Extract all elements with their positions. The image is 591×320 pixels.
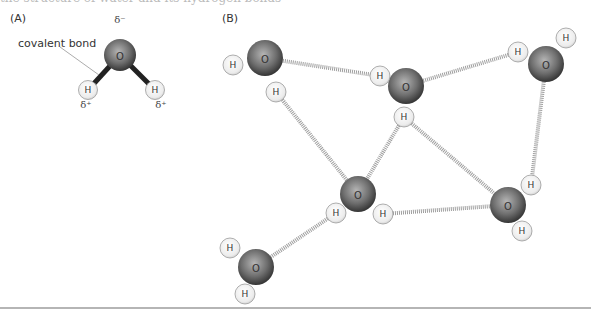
panel-a-molecule: covalent bond O H H δ⁻ δ⁺ δ⁺	[18, 14, 167, 110]
oxygen-symbol: O	[542, 60, 550, 71]
oxygen-symbol: O	[116, 51, 124, 62]
water-molecule: OHH	[220, 238, 274, 304]
oxygen-symbol: O	[402, 82, 410, 93]
bond-leader-line	[60, 47, 99, 75]
water-molecule: OHH	[490, 175, 541, 241]
hydrogen-symbol: H	[273, 87, 280, 97]
hydrogen-bond	[404, 117, 508, 205]
hydrogen-symbol: H	[528, 180, 535, 190]
hydrogen-symbol: H	[227, 243, 234, 253]
partial-positive-label-left: δ⁺	[80, 99, 91, 110]
hydrogen-symbol: H	[519, 226, 526, 236]
hydrogen-symbol: H	[563, 33, 570, 43]
hydrogen-bond	[383, 205, 508, 214]
hydrogen-symbol: H	[333, 208, 340, 218]
oxygen-symbol: O	[261, 54, 269, 65]
partial-positive-label-right: δ⁺	[155, 99, 166, 110]
hydrogen-bond	[531, 64, 546, 185]
water-molecules: OHHOHHOHHOHHOHHOHH	[220, 28, 576, 304]
hydrogen-symbol: H	[230, 60, 237, 70]
water-molecule: OHH	[223, 40, 286, 102]
water-molecule: OHH	[508, 28, 576, 82]
water-diagram: covalent bond O H H δ⁻ δ⁺ δ⁺ OHHOHHOHHOH…	[0, 0, 591, 320]
partial-negative-label: δ⁻	[114, 14, 125, 25]
hydrogen-bond	[276, 92, 358, 194]
hydrogen-symbol: H	[515, 47, 522, 57]
oxygen-symbol: O	[504, 201, 512, 212]
oxygen-symbol: O	[252, 263, 260, 274]
hydrogen-symbol-right: H	[152, 85, 159, 95]
hydrogen-symbol-left: H	[85, 85, 92, 95]
hydrogen-symbol: H	[242, 289, 249, 299]
oxygen-symbol: O	[354, 190, 362, 201]
covalent-bond-label: covalent bond	[18, 37, 96, 50]
hydrogen-symbol: H	[380, 209, 387, 219]
water-molecule: OHH	[370, 66, 424, 127]
bottom-divider	[0, 307, 591, 309]
hydrogen-symbol: H	[401, 112, 408, 122]
hydrogen-symbol: H	[377, 71, 384, 81]
water-molecule: OHH	[326, 176, 393, 224]
